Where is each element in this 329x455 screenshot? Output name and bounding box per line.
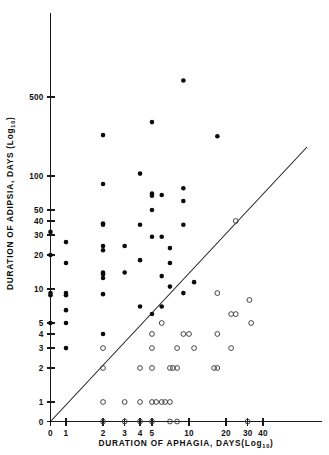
- data-point-open: [215, 291, 220, 296]
- data-point-filled: [181, 199, 186, 204]
- data-point-open: [187, 332, 192, 337]
- y-tick-label: 3: [39, 344, 44, 353]
- x-axis-title-main: DURATION OF APHAGIA, DAYS(: [98, 438, 244, 448]
- plot-canvas: 0123451020304050100500 01234510203040 DU…: [0, 0, 329, 455]
- data-point-filled: [48, 230, 53, 235]
- x-tick-label: 0: [48, 429, 53, 438]
- y-tick-label: 100: [29, 172, 44, 181]
- x-axis-ticks: 01234510203040: [48, 418, 268, 438]
- x-tick-label: 40: [258, 429, 268, 438]
- svg-text:DURATION OF ADIPSIA, DAYS (: DURATION OF ADIPSIA, DAYS (Log10): [5, 116, 16, 290]
- data-point-open: [229, 346, 234, 351]
- data-point-filled: [181, 222, 186, 227]
- data-point-filled: [101, 222, 106, 227]
- data-point-filled: [215, 134, 220, 139]
- identity-reference-line: [51, 147, 308, 422]
- data-point-filled: [150, 234, 155, 239]
- data-point-filled: [101, 248, 106, 253]
- data-point-open: [249, 321, 254, 326]
- data-point-filled: [101, 244, 106, 249]
- data-point-filled: [48, 253, 53, 258]
- data-point-filled: [101, 332, 106, 337]
- data-point-filled: [138, 304, 143, 309]
- x-tick-label: 20: [221, 429, 231, 438]
- y-axis-title-log: Log: [5, 128, 15, 145]
- data-point-filled: [122, 244, 127, 249]
- y-axis-title-sub: 10: [10, 120, 16, 128]
- data-point-filled: [122, 270, 127, 275]
- data-point-filled: [181, 291, 186, 296]
- x-tick-label: 3: [122, 429, 127, 438]
- data-point-filled: [64, 261, 69, 266]
- data-point-open: [159, 321, 164, 326]
- data-point-open: [122, 400, 127, 405]
- data-point-filled: [150, 120, 155, 125]
- y-tick-label: 5: [39, 319, 44, 328]
- data-point-filled: [181, 78, 186, 83]
- data-point-open: [229, 312, 234, 317]
- data-point-filled: [64, 308, 69, 313]
- data-point-open: [101, 346, 106, 351]
- x-tick-label: 1: [64, 429, 69, 438]
- data-point-open: [215, 332, 220, 337]
- y-tick-label: 40: [34, 217, 44, 226]
- data-point-open: [163, 400, 168, 405]
- data-point-filled: [101, 133, 106, 138]
- data-point-filled: [181, 186, 186, 191]
- data-point-filled: [101, 276, 106, 281]
- data-point-open: [181, 332, 186, 337]
- data-point-open: [101, 366, 106, 371]
- y-tick-label: 4: [39, 330, 44, 339]
- y-axis-title-close: ): [5, 116, 15, 120]
- svg-text:DURATION OF APHAGIA, DAYS(L: DURATION OF APHAGIA, DAYS(Log10): [98, 438, 273, 449]
- data-point-open: [138, 400, 143, 405]
- data-point-filled: [138, 222, 143, 227]
- data-point-filled: [150, 193, 155, 198]
- x-axis-title-close: ): [270, 438, 274, 448]
- data-points: [48, 78, 253, 424]
- data-point-open: [150, 346, 155, 351]
- y-tick-label: 0: [39, 418, 44, 427]
- y-tick-label: 2: [39, 364, 44, 373]
- data-point-filled: [159, 193, 164, 198]
- axes: [51, 13, 323, 422]
- y-tick-label: 50: [34, 206, 44, 215]
- data-point-filled: [150, 208, 155, 213]
- data-point-filled: [64, 240, 69, 245]
- data-point-filled: [101, 182, 106, 187]
- x-tick-label: 4: [138, 429, 143, 438]
- data-point-open: [192, 346, 197, 351]
- y-tick-label: 10: [34, 285, 44, 294]
- data-point-filled: [64, 346, 69, 351]
- data-point-filled: [150, 312, 155, 317]
- data-point-filled: [64, 321, 69, 326]
- y-tick-label: 500: [29, 93, 44, 102]
- data-point-filled: [64, 293, 69, 298]
- data-point-filled: [101, 292, 106, 297]
- data-point-filled: [168, 246, 173, 251]
- data-point-filled: [138, 171, 143, 176]
- data-point-filled: [159, 234, 164, 239]
- x-tick-label: 10: [184, 429, 194, 438]
- data-point-open: [233, 312, 238, 317]
- data-point-open: [138, 366, 143, 371]
- data-point-open: [150, 332, 155, 337]
- x-axis-title-log: Log: [245, 438, 262, 448]
- x-tick-label: 30: [243, 429, 253, 438]
- data-point-open: [168, 400, 173, 405]
- x-tick-label: 2: [101, 429, 106, 438]
- data-point-open: [175, 346, 180, 351]
- data-point-open: [247, 298, 252, 303]
- data-point-filled: [159, 274, 164, 279]
- y-tick-label: 30: [34, 231, 44, 240]
- y-tick-label: 20: [34, 251, 44, 260]
- data-point-open: [150, 366, 155, 371]
- x-axis-title: DURATION OF APHAGIA, DAYS(Log10): [98, 438, 273, 449]
- data-point-filled: [168, 261, 173, 266]
- data-point-filled: [192, 280, 197, 285]
- data-point-filled: [159, 304, 164, 309]
- data-point-filled: [48, 321, 53, 326]
- y-axis-title: DURATION OF ADIPSIA, DAYS (Log10): [5, 116, 16, 290]
- data-point-filled: [138, 258, 143, 263]
- x-tick-label: 5: [150, 429, 155, 438]
